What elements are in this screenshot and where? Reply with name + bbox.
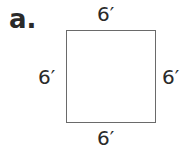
problem-label: a. xyxy=(9,6,36,32)
square-shape xyxy=(66,30,156,123)
side-label-bottom: 6′ xyxy=(97,128,114,148)
side-label-left: 6′ xyxy=(38,67,55,87)
side-label-top: 6′ xyxy=(97,4,114,24)
side-label-right: 6′ xyxy=(162,67,179,87)
